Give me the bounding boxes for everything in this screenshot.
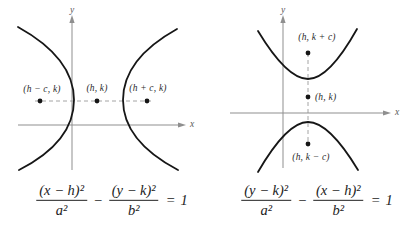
right-equation: (y − k)² a² − (x − h)² b² = 1 (241, 182, 393, 218)
left-equation-rhs: 1 (181, 192, 188, 209)
right-x-axis-arrow-icon (383, 110, 391, 115)
right-equation-rhs: 1 (386, 192, 393, 209)
right-equation-denominator-2: b² (333, 201, 345, 219)
right-equation-denominator-1: a² (260, 201, 272, 219)
left-equation-second-fraction: (y − k)² b² (109, 182, 159, 218)
right-y-axis-arrow-icon (280, 15, 285, 23)
left-equation-numerator-1: (x − h)² (36, 182, 87, 201)
left-focus-left-dot (38, 99, 43, 104)
right-focus-bottom-dot (306, 142, 311, 147)
left-x-axis-arrow-icon (178, 122, 186, 127)
left-hyperbola-left-branch (18, 27, 74, 170)
left-equation: (x − h)² a² − (y − k)² b² = 1 (36, 182, 188, 218)
right-equation-second-fraction: (x − h)² b² (313, 182, 364, 218)
left-equation-denominator-2: b² (128, 201, 140, 219)
right-equation-numerator-1: (y − k)² (241, 182, 291, 201)
left-equation-first-fraction: (x − h)² a² (36, 182, 87, 218)
left-focus-right-dot (145, 99, 150, 104)
right-focus-top-label: (h, k + c) (298, 32, 335, 42)
left-y-axis-label: y (70, 5, 74, 15)
right-hyperbola-lower-branch (258, 122, 358, 172)
right-equation-first-fraction: (y − k)² a² (241, 182, 291, 218)
left-y-axis-arrow-icon (69, 15, 74, 23)
left-focus-left-label: (h − c, k) (23, 84, 60, 94)
right-equation-equals-sign: = (371, 192, 381, 209)
left-x-axis-label: x (190, 119, 194, 129)
left-equation-denominator-1: a² (56, 201, 68, 219)
right-focus-top-dot (306, 51, 311, 56)
left-focus-right-label: (h + c, k) (129, 83, 166, 93)
right-x-axis-label: x (395, 107, 399, 117)
left-equation-minus-sign: − (93, 192, 103, 209)
right-center-label: (h, k) (315, 92, 336, 102)
left-equation-numerator-2: (y − k)² (109, 182, 159, 201)
right-center-dot (306, 95, 311, 100)
right-equation-minus-sign: − (297, 192, 307, 209)
left-hyperbola-right-branch (123, 29, 178, 170)
left-equation-equals-sign: = (166, 192, 176, 209)
left-center-dot (95, 99, 100, 104)
hyperbola-figure: y x (h − c, k) (h, k) (h + c, k) y x (h,… (0, 0, 414, 227)
right-y-axis-label: y (281, 5, 285, 15)
right-equation-numerator-2: (x − h)² (313, 182, 364, 201)
left-center-label: (h, k) (86, 83, 107, 93)
right-focus-bottom-label: (h, k − c) (292, 152, 329, 162)
